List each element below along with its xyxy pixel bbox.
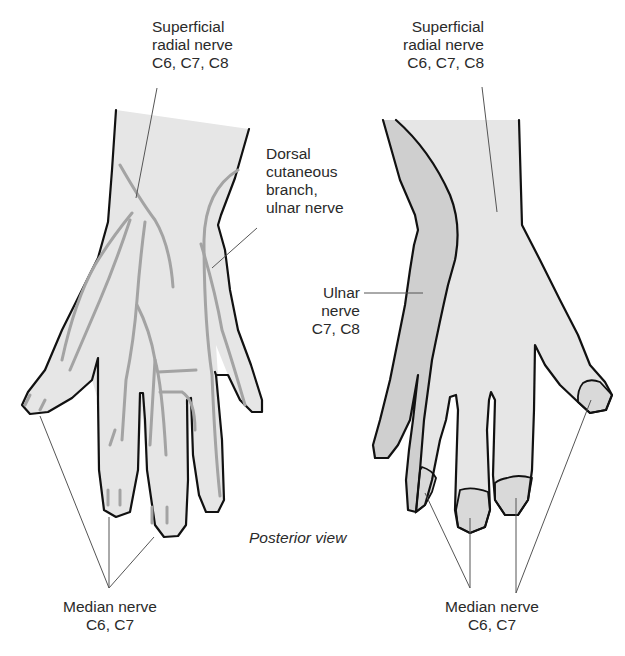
label-line: Ulnar xyxy=(290,284,360,302)
label-line: C6, C7 xyxy=(430,616,554,634)
label-line: C6, C7 xyxy=(48,616,172,634)
label-dorsal-cutaneous-branch-ulnar-nerve: Dorsal cutaneous branch, ulnar nerve xyxy=(266,145,344,217)
label-line: Median nerve xyxy=(430,598,554,616)
left-hand-skin xyxy=(22,110,262,537)
label-line: ulnar nerve xyxy=(266,199,344,217)
label-line: C6, C7, C8 xyxy=(380,54,484,72)
label-ulnar-nerve: Ulnar nerve C7, C8 xyxy=(290,284,360,338)
view-caption: Posterior view xyxy=(249,529,346,547)
label-line: cutaneous xyxy=(266,163,344,181)
label-right-median-nerve: Median nerve C6, C7 xyxy=(430,598,554,634)
label-line: C7, C8 xyxy=(290,320,360,338)
label-left-superficial-radial-nerve: Superficial radial nerve C6, C7, C8 xyxy=(152,18,233,72)
label-line: Superficial xyxy=(152,18,233,36)
label-line: Median nerve xyxy=(48,598,172,616)
label-right-superficial-radial-nerve: Superficial radial nerve C6, C7, C8 xyxy=(380,18,484,72)
label-line: radial nerve xyxy=(380,36,484,54)
label-line: C6, C7, C8 xyxy=(152,54,233,72)
right-hand xyxy=(364,87,612,593)
label-line: radial nerve xyxy=(152,36,233,54)
label-line: Superficial xyxy=(380,18,484,36)
label-left-median-nerve: Median nerve C6, C7 xyxy=(48,598,172,634)
left-hand xyxy=(22,88,262,588)
label-line: branch, xyxy=(266,181,344,199)
label-line: nerve xyxy=(290,302,360,320)
label-line: Dorsal xyxy=(266,145,344,163)
